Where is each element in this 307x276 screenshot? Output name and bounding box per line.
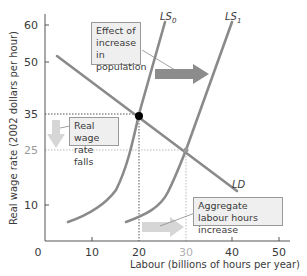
labour-market-chart: 60 50 35 25 10 0 10 20 30 40 50 Labour (…	[0, 0, 307, 276]
callout-wage-falls: Real wage rate falls	[69, 117, 119, 146]
y-tick-labels: 60 50 35 25 10	[24, 19, 38, 212]
y-tick-35: 35	[24, 108, 38, 121]
y-tick-25: 25	[24, 144, 38, 157]
population-shift-arrow	[155, 64, 209, 84]
y-axis-title: Real wage rate (2002 dollars per hour)	[8, 31, 19, 225]
x-tick-20: 20	[132, 246, 146, 259]
x-tick-labels: 0 10 20 30 40 50	[35, 246, 287, 259]
x-axis-title: Labour (billions of hours per year)	[130, 259, 300, 270]
ls1-curve	[126, 22, 232, 222]
x-tick-40: 40	[225, 246, 239, 259]
wage-falls-arrow	[47, 120, 65, 148]
initial-equilibrium-point	[135, 112, 143, 120]
ls1-label: LS1	[225, 11, 241, 25]
x-tick-50: 50	[272, 246, 286, 259]
ld-label: LD	[232, 179, 246, 190]
y-tick-50: 50	[24, 56, 38, 69]
ls0-label: LS0	[160, 11, 177, 25]
callout-labour-hours: Aggregate labour hours increase	[193, 197, 283, 226]
x-tick-30: 30	[179, 246, 193, 259]
x-tick-10: 10	[85, 246, 99, 259]
x-tick-0: 0	[35, 246, 42, 259]
new-equilibrium-point	[184, 148, 189, 153]
y-tick-60: 60	[24, 19, 38, 32]
callout-population: Effect of increase in population	[91, 22, 141, 65]
y-tick-10: 10	[24, 199, 38, 212]
labour-hours-arrow	[142, 217, 184, 237]
